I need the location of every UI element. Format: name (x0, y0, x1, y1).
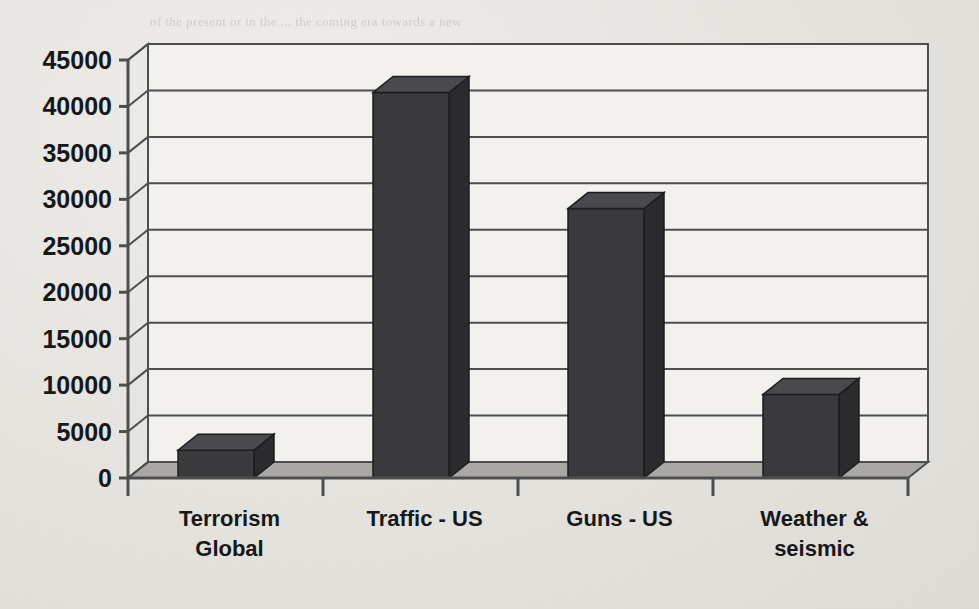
bar-2[interactable] (373, 77, 469, 478)
y-axis-tick-label: 45000 (42, 46, 112, 74)
y-axis-tick-label: 15000 (42, 325, 112, 353)
x-axis-category-label: Global (195, 536, 263, 561)
y-axis-tick-label: 30000 (42, 185, 112, 213)
bar-side-face (644, 193, 664, 478)
gridline-depth-connector (128, 323, 148, 339)
y-axis-tick-label: 35000 (42, 139, 112, 167)
bar-front-face (178, 450, 254, 478)
bar-1[interactable] (178, 434, 274, 478)
gridline-depth-connector (128, 183, 148, 199)
gridline-depth-connector (128, 416, 148, 432)
gridline-depth-connector (128, 90, 148, 106)
plot-left-wall (128, 44, 148, 478)
x-axis-category-label: Terrorism (179, 506, 280, 531)
y-axis-tick-label: 10000 (42, 371, 112, 399)
bar-3[interactable] (568, 193, 664, 478)
bar-chart: 0500010000150002000025000300003500040000… (0, 0, 979, 609)
chart-canvas: 0500010000150002000025000300003500040000… (0, 0, 979, 609)
gridline-depth-connector (128, 230, 148, 246)
y-axis-tick-label: 20000 (42, 278, 112, 306)
x-axis-category-label: Traffic - US (366, 506, 482, 531)
x-axis-category-label: seismic (774, 536, 855, 561)
gridline-depth-connector (128, 276, 148, 292)
x-axis-category-label: Weather & (760, 506, 869, 531)
y-axis-tick-label: 5000 (56, 418, 112, 446)
gridline-depth-connector (128, 369, 148, 385)
gridline-depth-connector (128, 137, 148, 153)
bar-4[interactable] (763, 378, 859, 478)
bar-front-face (763, 394, 839, 478)
y-axis-tick-label: 0 (98, 464, 112, 492)
y-axis-tick-label: 40000 (42, 92, 112, 120)
gridline-depth-connector (128, 44, 148, 60)
x-axis-category-label: Guns - US (566, 506, 672, 531)
bar-front-face (373, 93, 449, 478)
bar-front-face (568, 209, 644, 478)
bar-side-face (449, 77, 469, 478)
y-axis-tick-label: 25000 (42, 232, 112, 260)
bar-side-face (839, 378, 859, 478)
